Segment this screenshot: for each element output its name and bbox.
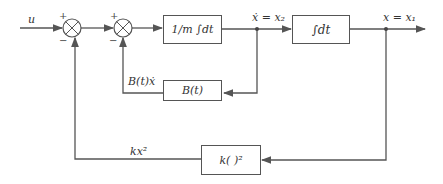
spring-label: k( )² bbox=[219, 154, 242, 167]
damping-feedback-label: B(t)ẋ bbox=[128, 76, 155, 87]
position-junction bbox=[384, 27, 388, 31]
summer1-plus: + bbox=[59, 11, 67, 21]
input-label: u bbox=[28, 14, 35, 25]
damping-block: B(t) bbox=[163, 80, 222, 101]
summer1-minus: − bbox=[59, 36, 67, 46]
damping-label: B(t) bbox=[182, 84, 203, 97]
spring-feedback-label: kx² bbox=[130, 146, 147, 157]
velocity-junction bbox=[255, 27, 259, 31]
position-signal-label: x = x₁ bbox=[383, 12, 416, 23]
integrator1-block: 1/m ∫dt bbox=[163, 15, 222, 44]
integrator1-label: 1/m ∫dt bbox=[172, 23, 214, 36]
integrator2-label: ∫dt bbox=[312, 23, 331, 37]
summer2-minus: − bbox=[109, 36, 117, 46]
velocity-signal-label: ẋ = x₂ bbox=[252, 12, 285, 23]
integrator2-block: ∫dt bbox=[292, 15, 350, 44]
summer2-plus: + bbox=[110, 11, 118, 21]
spring-block: k( )² bbox=[201, 145, 261, 175]
